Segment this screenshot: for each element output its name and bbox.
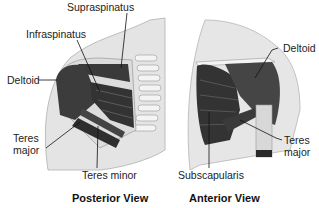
- label-supraspinatus: Supraspinatus: [67, 1, 134, 13]
- label-deltoid-anterior: Deltoid: [283, 42, 316, 54]
- label-teres-major-posterior-line1: Teres: [13, 132, 39, 144]
- label-subscapularis: Subscapularis: [178, 169, 244, 181]
- label-teres-major-anterior-line2: major: [284, 146, 310, 158]
- label-teres-major-anterior-line1: Teres: [284, 134, 310, 146]
- label-deltoid-posterior: Deltoid: [7, 74, 40, 86]
- label-teres-major-posterior-line2: major: [13, 144, 39, 156]
- label-teres-minor: Teres minor: [82, 169, 137, 181]
- label-infraspinatus: Infraspinatus: [26, 28, 86, 40]
- posterior-view-title: Posterior View: [72, 192, 148, 204]
- anterior-view-title: Anterior View: [189, 192, 260, 204]
